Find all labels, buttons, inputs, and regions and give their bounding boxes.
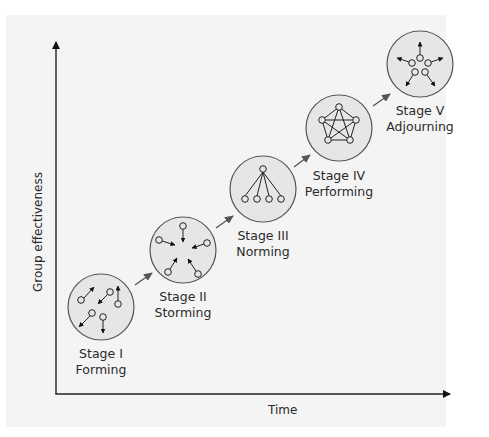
stage-name: Forming	[76, 362, 127, 378]
y-axis-label: Group effectiveness	[31, 172, 45, 292]
arrow-stage1-to-stage2	[135, 273, 152, 285]
arrow-stage2-to-stage3	[216, 216, 233, 228]
stage-label-adjourning: Stage V Adjourning	[386, 103, 453, 135]
stage-title: Stage IV	[305, 168, 373, 184]
hierarchy-nodes-icon	[230, 156, 296, 222]
stage-name: Norming	[236, 244, 289, 260]
converging-nodes-icon	[150, 217, 216, 283]
stage-title: Stage III	[236, 228, 289, 244]
stage-name: Storming	[155, 305, 212, 321]
dispersing-nodes-icon	[387, 31, 453, 97]
arrow-stage3-to-stage4	[294, 155, 310, 167]
stage-name: Performing	[305, 184, 373, 200]
stage-name: Adjourning	[386, 119, 453, 135]
scattered-nodes-icon	[68, 274, 134, 340]
stage-label-storming: Stage II Storming	[155, 289, 212, 321]
x-axis-label: Time	[268, 403, 297, 417]
stage-label-performing: Stage IV Performing	[305, 168, 373, 200]
diagram-canvas	[0, 0, 489, 437]
fully-connected-nodes-icon	[306, 95, 372, 161]
stage-label-norming: Stage III Norming	[236, 228, 289, 260]
stage-title: Stage II	[155, 289, 212, 305]
stage-title: Stage V	[386, 103, 453, 119]
stage-title: Stage I	[76, 346, 127, 362]
stage-label-forming: Stage I Forming	[76, 346, 127, 378]
